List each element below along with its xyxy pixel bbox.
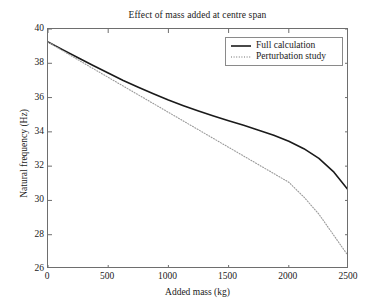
legend-line-solid-icon <box>230 41 252 51</box>
legend-item-perturbation-study: Perturbation study <box>230 51 339 62</box>
chart-title: Effect of mass added at centre span <box>47 9 348 21</box>
x-tick-label: 2500 <box>325 271 370 281</box>
legend-box: Full calculation Perturbation study <box>225 37 343 66</box>
figure-canvas: Effect of mass added at centre span 2628… <box>0 0 370 307</box>
legend-item-full-calculation: Full calculation <box>230 40 339 51</box>
y-tick-label: 38 <box>14 57 44 67</box>
legend-label-full-calculation: Full calculation <box>256 40 315 51</box>
legend-line-dotted-icon <box>230 52 252 62</box>
x-tick-label: 500 <box>84 271 130 281</box>
x-tick-label: 0 <box>24 271 70 281</box>
x-tick-label: 1500 <box>205 271 251 281</box>
x-tick-label: 2000 <box>265 271 311 281</box>
legend-label-perturbation-study: Perturbation study <box>256 51 326 62</box>
y-tick-label: 40 <box>14 23 44 33</box>
x-tick-label: 1000 <box>144 271 190 281</box>
y-axis-label: Natural frequency (Hz) <box>19 74 30 234</box>
x-axis-label: Added mass (kg) <box>47 287 348 298</box>
series-line-perturbation-study <box>48 42 348 257</box>
